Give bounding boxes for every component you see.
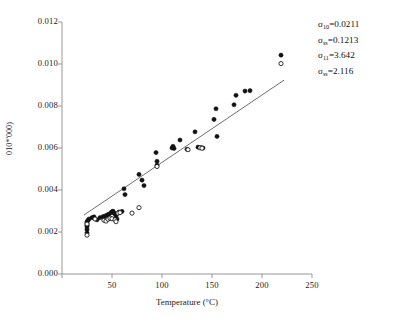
data-point-filled bbox=[137, 172, 141, 176]
data-point-open bbox=[130, 211, 134, 215]
y-axis-tick-label: 0.008 bbox=[38, 101, 58, 110]
data-point-filled bbox=[172, 146, 176, 150]
data-point-filled bbox=[212, 117, 216, 121]
sigma-annotation: σss=2.116 bbox=[318, 64, 394, 80]
sigma-annotation: σ11=3.642 bbox=[318, 48, 394, 64]
sigma-annotation: σ10=0.0211 bbox=[318, 17, 394, 33]
data-point-open bbox=[155, 164, 159, 168]
annotation-block: σ10=0.0211σss=0.1213σ11=3.642σss=2.116 bbox=[318, 17, 394, 79]
x-axis-tick-label: 250 bbox=[305, 281, 319, 290]
sigma-subscript: ss bbox=[323, 39, 328, 46]
trend-line bbox=[84, 80, 284, 215]
data-point-filled bbox=[248, 89, 252, 93]
data-point-filled bbox=[193, 130, 197, 134]
sigma-subscript: ss bbox=[323, 70, 328, 77]
data-point-filled bbox=[122, 187, 126, 191]
data-point-open bbox=[85, 233, 89, 237]
data-point-open bbox=[114, 220, 118, 224]
data-point-filled bbox=[178, 138, 182, 142]
data-point-filled bbox=[142, 183, 146, 187]
data-point-filled bbox=[140, 178, 144, 182]
x-axis-tick-label: 50 bbox=[108, 281, 117, 290]
sigma-value: =2.116 bbox=[328, 66, 354, 76]
sigma-subscript: 11 bbox=[323, 54, 329, 61]
data-point-filled bbox=[232, 103, 236, 107]
y-axis-tick-label: 0.004 bbox=[38, 185, 58, 194]
sigma-value: =3.642 bbox=[329, 50, 355, 60]
y-axis-title: 010*'000) bbox=[5, 104, 14, 174]
y-axis-tick-label: 0.006 bbox=[38, 143, 58, 152]
y-axis-tick-label: 0.002 bbox=[38, 227, 58, 236]
data-point-open bbox=[85, 222, 89, 226]
data-point-open bbox=[118, 211, 122, 215]
sigma-annotation: σss=0.1213 bbox=[318, 33, 394, 49]
y-axis-tick-label: 0.012 bbox=[38, 17, 58, 26]
x-axis-tick-label: 100 bbox=[155, 281, 169, 290]
data-point-open bbox=[137, 206, 141, 210]
sigma-value: =0.1213 bbox=[328, 35, 358, 45]
data-point-filled bbox=[234, 93, 238, 97]
x-axis-title: Temperature (°C) bbox=[62, 297, 312, 307]
data-point-open bbox=[93, 217, 97, 221]
y-axis-tick-label: 0.000 bbox=[38, 269, 58, 278]
data-point-filled bbox=[243, 89, 247, 93]
data-point-open bbox=[186, 148, 190, 152]
sigma-subscript: 10 bbox=[323, 23, 329, 30]
data-point-open bbox=[200, 146, 204, 150]
x-axis-tick-label: 150 bbox=[205, 281, 219, 290]
data-point-filled bbox=[154, 151, 158, 155]
data-point-filled bbox=[123, 193, 127, 197]
figure-container: 0.0000.0020.0040.0060.0080.0100.012 5010… bbox=[0, 0, 394, 327]
x-axis-tick-label: 200 bbox=[255, 281, 269, 290]
data-point-filled bbox=[279, 53, 283, 57]
y-axis-tick-label: 0.010 bbox=[38, 59, 58, 68]
data-point-filled bbox=[215, 134, 219, 138]
data-point-open bbox=[279, 61, 283, 65]
data-point-filled bbox=[155, 159, 159, 163]
x-axis-tick-labels: 50100150200250 bbox=[0, 281, 394, 295]
sigma-value: =0.0211 bbox=[329, 19, 359, 29]
data-point-filled bbox=[214, 107, 218, 111]
